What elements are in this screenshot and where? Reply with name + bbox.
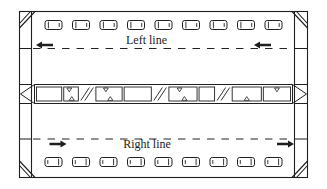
corner-chamfer-top-left [20, 12, 36, 29]
corner-chamfer-bottom-left [20, 161, 36, 178]
median-cell [124, 87, 151, 101]
median-cell [199, 87, 215, 101]
tunnel-diagram: Left line Right line [0, 0, 327, 189]
left-line-label: Left line [126, 33, 167, 47]
direction-arrow-left-icon [36, 41, 53, 48]
direction-arrow-right-icon [50, 140, 67, 147]
direction-arrow-left-icon [254, 41, 271, 48]
direction-arrow-right-icon [277, 140, 294, 147]
median-slash-divider [221, 88, 230, 101]
figure-canvas: Left line Right line [0, 0, 327, 189]
median-slash-divider [158, 88, 167, 101]
median-taper-left [21, 85, 35, 104]
median-slash-divider [217, 88, 226, 101]
right-line-label: Right line [123, 137, 171, 151]
median-cell [37, 87, 62, 101]
median-slash-divider [85, 88, 94, 101]
median-slash-divider [81, 88, 90, 101]
median-slash-divider [154, 88, 163, 101]
